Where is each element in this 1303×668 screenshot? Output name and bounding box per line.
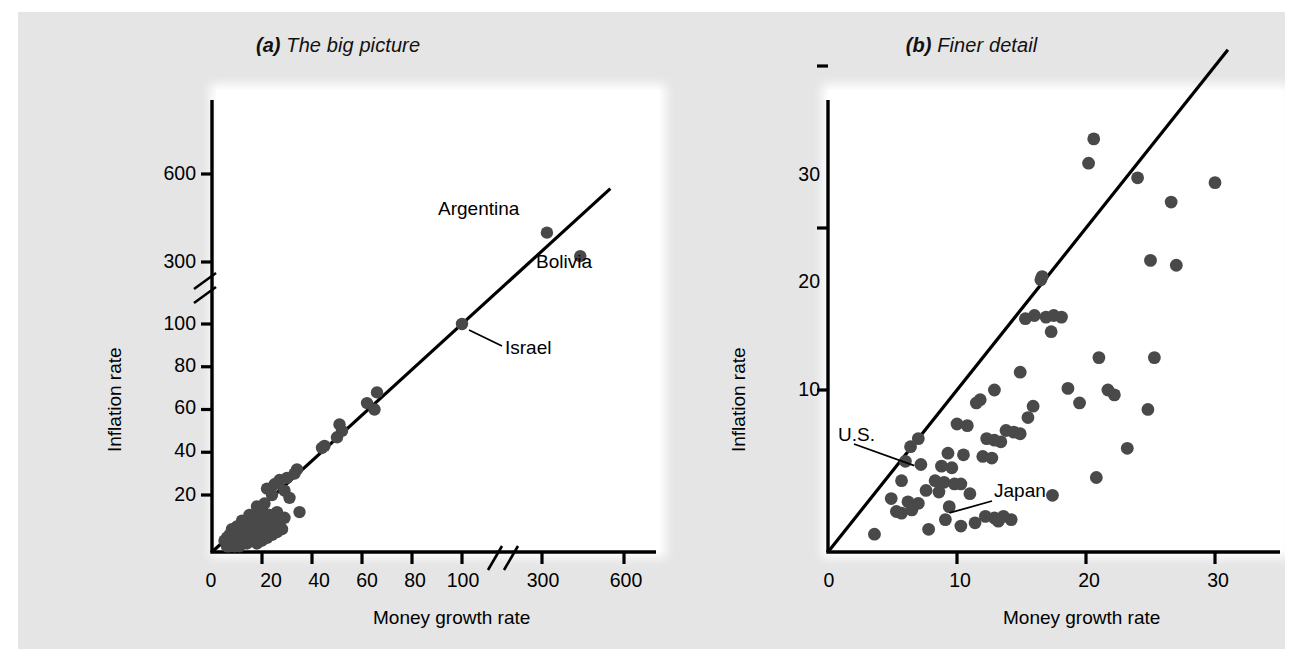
panel-b-ytick-30: 30 <box>752 163 820 186</box>
panel-b: (b) Finer detail 30 20 10 0 10 20 30 Inf… <box>658 12 1285 649</box>
panel-a-xtick-60: 60 <box>342 569 392 592</box>
panel-a-annotation-bolivia: Bolivia <box>536 251 592 273</box>
panel-a: (a) The big picture 600 300 100 80 60 40… <box>18 12 658 649</box>
panel-a-xtick-20: 20 <box>246 569 296 592</box>
panel-b-ytick-10: 10 <box>752 378 820 401</box>
panel-a-plot <box>18 12 658 649</box>
panel-a-annotation-israel: Israel <box>505 337 551 359</box>
panel-a-ytick-300: 300 <box>128 250 196 273</box>
panel-a-xtick-100: 100 <box>433 569 493 592</box>
panel-a-xtick-0: 0 <box>186 569 236 592</box>
panel-a-xtick-300: 300 <box>513 569 573 592</box>
panel-a-xlabel: Money growth rate <box>373 607 530 629</box>
panel-a-xtick-600: 600 <box>596 569 656 592</box>
panel-b-xlabel: Money growth rate <box>1003 607 1160 629</box>
panel-a-ytick-100: 100 <box>128 312 196 335</box>
figure-paper: (a) The big picture 600 300 100 80 60 40… <box>18 12 1285 649</box>
panel-b-xtick-10: 10 <box>930 569 990 592</box>
panel-b-annotation-japan: Japan <box>994 480 1046 502</box>
panel-b-annotation-us: U.S. <box>838 424 875 446</box>
figure-page: (a) The big picture 600 300 100 80 60 40… <box>0 0 1303 668</box>
panel-b-xtick-0: 0 <box>804 569 854 592</box>
panel-a-ytick-40: 40 <box>128 439 196 462</box>
panel-a-xtick-40: 40 <box>294 569 344 592</box>
panel-a-ylabel: Inflation rate <box>104 347 126 452</box>
panel-a-ytick-80: 80 <box>128 354 196 377</box>
panel-b-plot <box>658 12 1285 649</box>
panel-b-ytick-20: 20 <box>752 270 820 293</box>
panel-b-xtick-20: 20 <box>1059 569 1119 592</box>
panel-b-xtick-30: 30 <box>1188 569 1248 592</box>
panel-b-ylabel: Inflation rate <box>728 347 750 452</box>
panel-a-ytick-600: 600 <box>128 162 196 185</box>
panel-a-ytick-60: 60 <box>128 396 196 419</box>
panel-a-annotation-argentina: Argentina <box>438 198 519 220</box>
panel-a-ytick-20: 20 <box>128 483 196 506</box>
